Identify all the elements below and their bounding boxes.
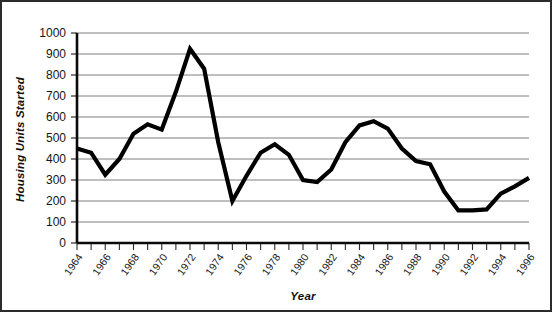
y-tick-label: 600 [46,110,66,124]
x-axis-title: Year [290,290,316,302]
x-tick-label: 1972 [174,251,197,277]
x-tick-label: 1992 [457,251,480,277]
x-tick-label: 1964 [61,251,84,277]
data-series-line [77,49,529,211]
x-tick-label: 1974 [203,251,226,277]
y-tick-labels-group: 01002003004005006007008009001000 [39,26,66,250]
x-tick-label: 1966 [90,251,113,277]
x-tick-label: 1990 [429,251,452,277]
chart-frame: 01002003004005006007008009001000 1964196… [0,0,552,312]
x-tick-label: 1982 [316,251,339,277]
x-tick-label: 1970 [146,251,169,277]
x-tick-label: 1978 [259,251,282,277]
y-tick-label: 1000 [39,26,66,40]
y-tick-label: 200 [46,194,66,208]
x-tick-label: 1968 [118,251,141,277]
y-tick-label: 100 [46,215,66,229]
x-tick-label: 1994 [485,251,508,277]
y-tick-label: 300 [46,173,66,187]
chart-svg: 01002003004005006007008009001000 1964196… [2,2,552,312]
line-chart: 01002003004005006007008009001000 1964196… [2,2,552,312]
y-tick-label: 400 [46,152,66,166]
y-tick-label: 700 [46,89,66,103]
x-tick-label: 1976 [231,251,254,277]
y-tick-label: 900 [46,47,66,61]
x-tick-label: 1996 [513,251,536,277]
x-tick-label: 1986 [372,251,395,277]
y-tick-label: 800 [46,68,66,82]
y-axis-title: Housing Units Started [14,76,26,202]
y-tick-label: 0 [59,236,66,250]
x-tick-label: 1988 [400,251,423,277]
x-tick-labels-group: 1964196619681970197219741976197819801982… [61,251,536,277]
x-tick-label: 1984 [344,251,367,277]
y-tick-label: 500 [46,131,66,145]
x-tick-label: 1980 [287,251,310,277]
